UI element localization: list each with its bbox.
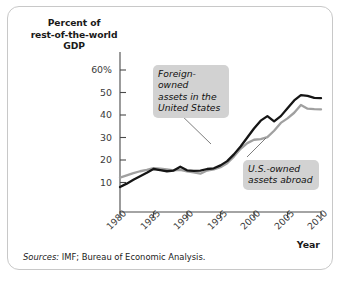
source-note-prefix: Sources: — [23, 252, 59, 262]
chart-plot-area: Percent of rest-of-the-world GDP 60%5040… — [8, 7, 334, 271]
y-axis-tick-50: 50 — [78, 87, 112, 98]
us-owned-callout-line-1: U.S.-owned — [248, 163, 314, 174]
foreign-owned-callout-line-2: assets in the — [158, 91, 224, 102]
y-axis-tick-40: 40 — [78, 109, 112, 120]
foreign-owned-callout-line-3: United States — [158, 102, 224, 113]
us-owned-callout: U.S.-owned assets abroad — [243, 160, 319, 190]
source-note-text: IMF; Bureau of Economic Analysis. — [59, 252, 205, 262]
y-axis-tick-30: 30 — [78, 132, 112, 143]
y-axis-tick-60: 60% — [78, 64, 112, 75]
y-axis-tick-10: 10 — [78, 177, 112, 188]
source-note: Sources: IMF; Bureau of Economic Analysi… — [23, 252, 205, 262]
us-owned-callout-line-2: assets abroad — [248, 174, 314, 185]
foreign-owned-callout: Foreign-owned assets in the United State… — [153, 65, 229, 118]
foreign-owned-callout-line-1: Foreign-owned — [158, 68, 224, 91]
chart-canvas — [8, 7, 334, 271]
y-axis-tick-20: 20 — [78, 154, 112, 165]
x-axis-title: Year — [297, 239, 320, 250]
chart-figure-panel: Percent of rest-of-the-world GDP 60%5040… — [7, 6, 333, 270]
